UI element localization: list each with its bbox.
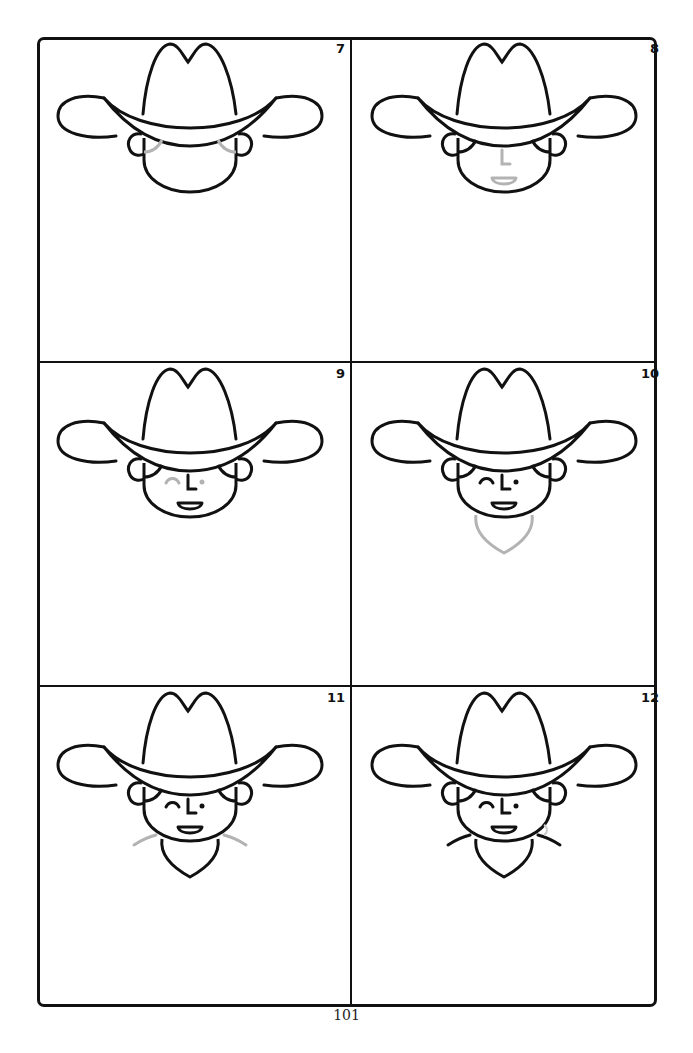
step-panel-12: 12 [352,687,664,1009]
step-panel-11: 11 [38,687,350,1009]
cowboy-drawing-step-10 [352,363,656,685]
step-number: 9 [336,366,345,381]
step-number: 7 [336,41,345,56]
cowboy-drawing-step-8 [352,38,656,360]
step-number: 8 [650,41,659,56]
step-panel-7: 7 [38,38,350,360]
step-panel-10: 10 [352,363,664,685]
page-number: 101 [0,1007,693,1023]
step-panel-8: 8 [352,38,664,360]
step-number: 10 [641,366,659,381]
cowboy-drawing-step-11 [38,687,350,1007]
step-number: 12 [641,690,659,705]
cowboy-drawing-step-12 [352,687,656,1007]
step-panel-9: 9 [38,363,350,685]
cowboy-drawing-step-9 [38,363,350,685]
step-number: 11 [327,690,345,705]
cowboy-drawing-step-7 [38,38,350,360]
